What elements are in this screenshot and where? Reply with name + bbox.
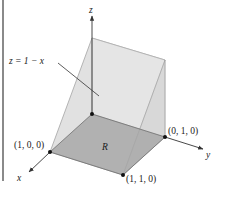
point-label-1-1-0: (1, 1, 0) bbox=[126, 174, 156, 185]
z-axis-label: z bbox=[88, 5, 93, 15]
surface-label: z = 1 − x bbox=[8, 56, 45, 66]
point-0-1-0 bbox=[163, 135, 167, 139]
diagram-canvas: z y x z = 1 − x R (1, 0, 0) (0, 1, 0) (1… bbox=[0, 0, 226, 199]
x-axis bbox=[29, 152, 50, 172]
point-1-1-0 bbox=[121, 173, 125, 177]
y-axis bbox=[165, 137, 203, 149]
y-axis-label: y bbox=[205, 150, 211, 160]
point-label-1-0-0: (1, 0, 0) bbox=[14, 140, 44, 151]
point-label-0-1-0: (0, 1, 0) bbox=[168, 126, 198, 137]
region-label: R bbox=[101, 142, 108, 152]
origin-point bbox=[90, 112, 94, 116]
point-1-0-0 bbox=[48, 150, 52, 154]
x-axis-label: x bbox=[16, 173, 22, 183]
